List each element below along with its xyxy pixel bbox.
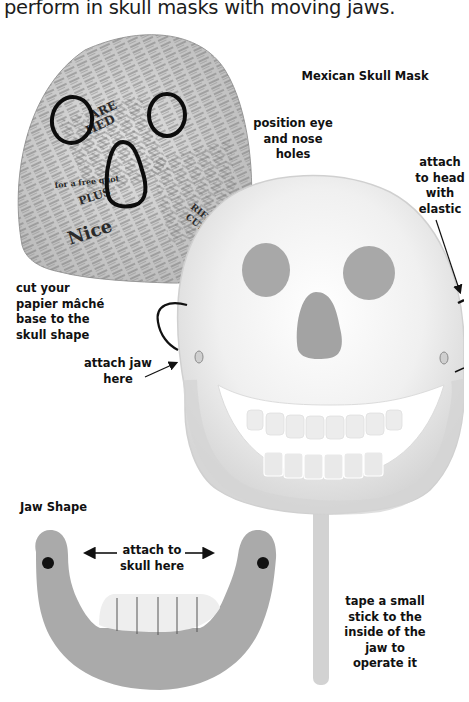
annotation-line: and nose bbox=[238, 132, 348, 148]
annotation-line: tape a small bbox=[340, 594, 430, 610]
left-jaw-rivet bbox=[195, 351, 203, 363]
annotation-line: here bbox=[78, 372, 158, 388]
annotation-line: base to the bbox=[16, 312, 146, 328]
annotation-line: operate it bbox=[340, 656, 430, 672]
annotation-line: attach bbox=[408, 155, 469, 171]
annotation-line: holes bbox=[238, 147, 348, 163]
right-jaw-rivet bbox=[440, 352, 448, 364]
attach-head-annotation: attach to head with elastic bbox=[408, 155, 469, 217]
attach-jaw-annotation: attach jaw here bbox=[78, 356, 158, 387]
annotation-line: jaw to bbox=[340, 641, 430, 657]
annotation-line: inside of the bbox=[340, 625, 430, 641]
mexican-skull-mask bbox=[178, 176, 464, 514]
annotation-line: skull shape bbox=[16, 328, 146, 344]
mexican-skull-mask-title: Mexican Skull Mask bbox=[290, 69, 440, 85]
annotation-line: stick to the bbox=[340, 610, 430, 626]
annotation-line: attach jaw bbox=[78, 356, 158, 372]
annotation-line: with bbox=[408, 186, 469, 202]
jaw-left-pivot-hole bbox=[42, 557, 54, 569]
lower-teeth bbox=[264, 452, 383, 479]
mask-left-eye-hole bbox=[242, 243, 290, 297]
annotation-line: elastic bbox=[408, 202, 469, 218]
jaw-shape-title: Jaw Shape bbox=[20, 500, 120, 516]
position-eye-annotation: position eye and nose holes bbox=[238, 116, 348, 163]
mask-right-eye-hole bbox=[343, 246, 395, 300]
tape-stick-annotation: tape a small stick to the inside of the … bbox=[340, 594, 430, 672]
attach-skull-annotation: attach to skull here bbox=[112, 543, 192, 574]
annotation-line: papier mâché bbox=[16, 297, 146, 313]
annotation-line: position eye bbox=[238, 116, 348, 132]
annotation-line: cut your bbox=[16, 281, 146, 297]
annotation-line: to head bbox=[408, 171, 469, 187]
jaw-right-pivot-hole bbox=[257, 557, 269, 569]
annotation-line: skull here bbox=[112, 559, 192, 575]
operating-stick bbox=[313, 490, 329, 685]
cut-base-annotation: cut your papier mâché base to the skull … bbox=[16, 281, 146, 343]
annotation-line: attach to bbox=[112, 543, 192, 559]
